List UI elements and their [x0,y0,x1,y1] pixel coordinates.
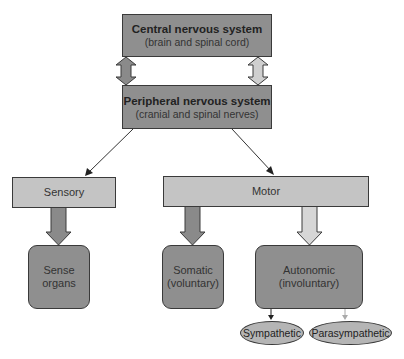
motor-label: Motor [252,185,280,198]
cns-box: Central nervous system (brain and spinal… [122,14,272,57]
somatic-line1: Somatic [173,264,213,277]
motor-box: Motor [163,176,369,207]
down-arrow-icon [46,207,71,245]
autonomic-line2: (involuntary) [279,277,340,290]
arrowhead-icon [268,315,274,320]
pns-title: Peripheral nervous system [123,94,270,108]
autonomic-box: Autonomic (involuntary) [255,245,363,309]
sense-organs-line2: organs [42,277,76,290]
cns-subtitle: (brain and spinal cord) [145,36,249,49]
parasympathetic-label: Parasympathetic [311,327,389,339]
sympathetic-label: Sympathetic [243,327,301,339]
double-arrow-icon [116,57,136,85]
sensory-box: Sensory [12,177,116,208]
double-arrow-icon [248,57,268,85]
sense-organs-line1: Sense [43,264,74,277]
somatic-box: Somatic (voluntary) [162,245,224,309]
pns-subtitle: (cranial and spinal nerves) [135,108,258,121]
pns-box: Peripheral nervous system (cranial and s… [122,85,272,129]
down-arrow-icon [180,206,205,245]
sensory-label: Sensory [44,186,84,199]
autonomic-line1: Autonomic [283,264,335,277]
sympathetic-ellipse: Sympathetic [240,321,304,345]
sense-organs-box: Sense organs [28,245,90,309]
parasympathetic-ellipse: Parasympathetic [309,321,392,345]
cns-title: Central nervous system [132,22,262,36]
arrowhead-icon [342,315,348,320]
down-arrow-icon [297,206,322,245]
somatic-line2: (voluntary) [167,277,219,290]
